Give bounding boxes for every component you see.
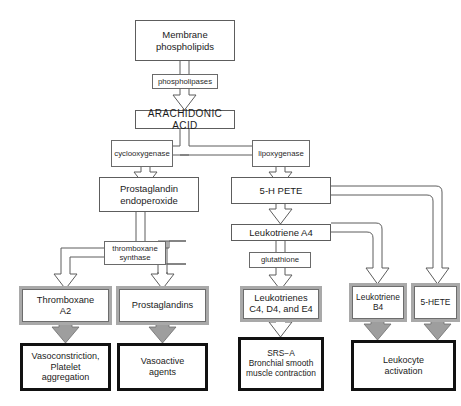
label-line-2: endoperoxide [120,195,178,206]
label: cyclooxygenase [114,149,169,158]
node-5-hete: 5-HETE [414,286,457,319]
node-vasoactive-agents: Vasoactive agents [117,343,208,391]
pathway-diagram: Membrane phospholipids phospholipases AR… [0,0,461,406]
node-cyclooxygenase: cyclooxygenase [111,140,173,167]
node-leukotriene-a4: Leukotriene A4 [231,224,331,241]
label-line-1: Thromboxane [37,295,94,305]
node-thromboxane-a2: Thromboxane A2 [22,289,109,322]
label-line-2: C4, D4, and E4 [249,304,313,314]
label: 5-HETE [421,298,451,308]
label-line-1: Leukocyte [383,355,424,365]
node-prostaglandin-endoperoxide: Prostaglandin endoperoxide [99,177,199,212]
label: lipoxygenase [258,149,304,158]
label-line-2: Platelet [50,362,80,372]
node-leukotriene-b4: Leukotriene B4 [352,286,404,319]
node-vasoconstriction-platelet-aggregation: Vasoconstriction, Platelet aggregation [20,343,111,391]
label-line-1: Leukotriene [356,292,400,302]
label: Leukotriene A4 [249,227,312,238]
label-line-2: A2 [60,306,71,316]
label-line-1: Leukotrienes [254,293,307,303]
node-glutathione: glutathione [249,252,311,268]
label-line-2: B4 [373,302,383,312]
label: glutathione [261,255,299,264]
label-line-2: activation [384,366,422,376]
node-5-h-pete: 5-H PETE [231,177,331,204]
label-line-1: Prostaglandin [120,183,178,194]
label-line-2: phospholipids [156,41,214,52]
node-prostaglandins: Prostaglandins [119,289,206,322]
label: Prostaglandins [132,300,194,311]
label-line-1: thromboxane [112,244,158,253]
label: phospholipases [158,77,212,86]
node-thromboxane-synthase: thromboxane synthase [104,241,166,265]
label-line-1: Vasoactive [141,356,184,366]
node-srs-a: SRS−A Bronchial smooth muscle contractio… [238,337,324,391]
node-arachidonic-acid: ARACHIDONIC ACID [135,110,235,129]
label-line-3: muscle contraction [246,368,316,378]
label-line-2: agents [149,367,176,377]
label-line-3: aggregation [42,372,90,382]
label-line-2: synthase [119,253,150,262]
node-phospholipases: phospholipases [152,74,218,89]
label-line-2: Bronchial smooth [249,358,314,368]
node-leukocyte-activation: Leukocyte activation [351,340,456,391]
label-line-1: SRS−A [267,348,295,358]
label-line-1: Membrane [162,29,207,40]
label: ARACHIDONIC ACID [136,108,234,132]
node-lipoxygenase: lipoxygenase [252,140,310,167]
label-line-1: Vasoconstriction, [32,351,100,361]
label: 5-H PETE [260,185,303,196]
node-membrane-phospholipids: Membrane phospholipids [135,20,235,61]
node-leukotrienes-c4-d4-e4: Leukotrienes C4, D4, and E4 [243,289,319,319]
